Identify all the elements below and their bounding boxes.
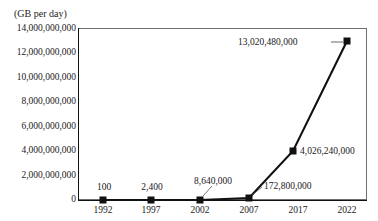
data-point-marker-2002 [197, 197, 204, 204]
data-label-1997: 2,400 [141, 182, 162, 193]
leader-line-172800000 [251, 187, 262, 196]
data-label-2017: 4,026,240,000 [300, 146, 355, 157]
data-label-2007: 172,800,000 [264, 181, 312, 192]
data-point-marker-2022 [344, 38, 351, 45]
series-layer [0, 0, 378, 221]
data-label-2002: 8,640,000 [194, 176, 232, 187]
data-point-marker-2007 [246, 195, 253, 202]
data-point-marker-1997 [148, 197, 155, 204]
data-point-marker-2017 [290, 148, 297, 155]
line-chart: (GB per day) 14,000,000,000 12,000,000,0… [0, 0, 378, 221]
leader-line-8640000 [203, 186, 212, 196]
data-point-marker-1992 [100, 197, 107, 204]
data-label-2022: 13,020,480,000 [238, 37, 297, 48]
data-label-1992: 100 [97, 182, 111, 193]
